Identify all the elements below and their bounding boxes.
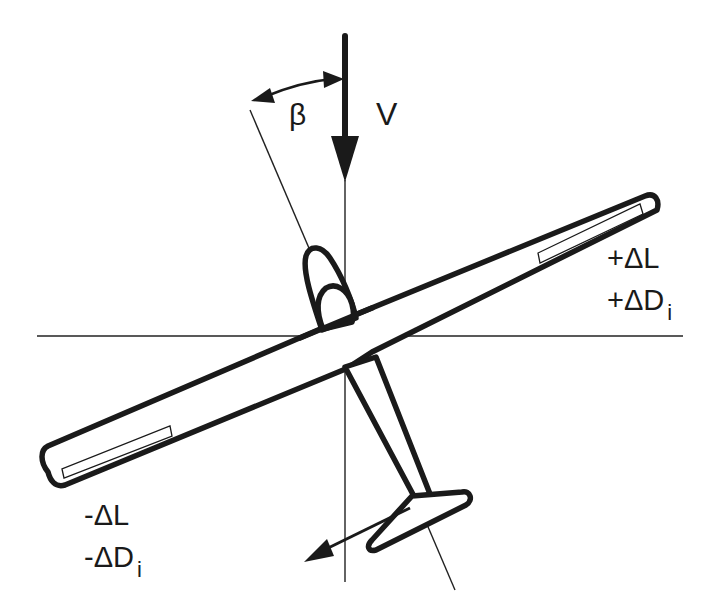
beta-label: β	[289, 98, 306, 131]
sideslip-diagram: β V +ΔL +ΔDi -ΔL -ΔDi	[0, 0, 705, 612]
fuselage	[345, 357, 430, 500]
left-lift-label: -ΔL	[84, 499, 129, 531]
velocity-label: V	[376, 96, 398, 132]
velocity-arrow	[331, 36, 359, 182]
left-drag-label: -ΔDi	[84, 541, 142, 582]
glider	[42, 195, 658, 550]
wing	[42, 195, 658, 486]
right-drag-label: +ΔDi	[607, 284, 672, 325]
right-lift-label: +ΔL	[607, 242, 659, 274]
